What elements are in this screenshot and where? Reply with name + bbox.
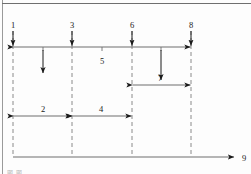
span-2-label: 2	[41, 104, 45, 114]
marker-label-3: 3	[70, 20, 74, 30]
marker-label-6: 6	[130, 20, 134, 30]
figure-canvas: 1 3 6 8 5 7	[0, 0, 251, 174]
timeline-diagram: 1 3 6 8 5 7	[0, 0, 251, 174]
span-5: 5	[14, 47, 191, 66]
time-axis: 9	[13, 153, 246, 163]
span-4: 4	[73, 104, 132, 116]
span-4-label: 4	[99, 104, 104, 114]
time-axis-label: 9	[242, 153, 246, 163]
marker-label-1: 1	[11, 20, 15, 30]
span-7: 7	[133, 73, 191, 85]
span-2: 2	[14, 104, 72, 116]
marker-label-8: 8	[189, 20, 193, 30]
drop-arrows	[13, 31, 191, 46]
figure-caption: 图 图	[7, 168, 22, 174]
span-5-label: 5	[100, 56, 104, 66]
span-7-label: 7	[158, 73, 162, 83]
